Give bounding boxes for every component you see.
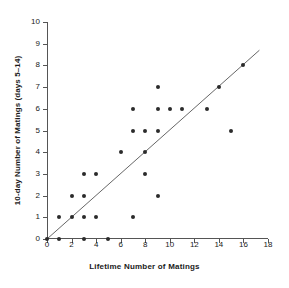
x-axis-label: Lifetime Number of Matings [0, 262, 289, 271]
y-tick-label: 8 [24, 60, 40, 69]
data-point [229, 129, 233, 133]
y-tick-label: 6 [24, 104, 40, 113]
y-tick [43, 87, 47, 88]
data-point [205, 107, 209, 111]
data-point [180, 107, 184, 111]
y-tick [43, 217, 47, 218]
x-tick-label: 10 [160, 240, 180, 249]
data-point [217, 85, 221, 89]
y-tick-label: 9 [24, 39, 40, 48]
data-point [131, 129, 135, 133]
y-tick [43, 22, 47, 23]
y-tick [43, 65, 47, 66]
data-point [70, 194, 74, 198]
x-tick-label: 0 [37, 240, 57, 249]
y-tick [43, 152, 47, 153]
y-axis-label: 10-day Number of Matings (days 5–14) [13, 51, 22, 211]
y-tick [43, 44, 47, 45]
y-tick-label: 7 [24, 82, 40, 91]
y-tick [43, 174, 47, 175]
data-point [156, 107, 160, 111]
x-tick-label: 14 [209, 240, 229, 249]
x-tick-label: 12 [184, 240, 204, 249]
data-point [156, 85, 160, 89]
data-point [156, 194, 160, 198]
data-point [119, 150, 123, 154]
y-axis-line [47, 22, 48, 239]
y-tick-label: 1 [24, 212, 40, 221]
x-tick-label: 16 [233, 240, 253, 249]
y-tick [43, 109, 47, 110]
x-tick-label: 18 [258, 240, 278, 249]
data-point [156, 129, 160, 133]
x-axis-line [47, 238, 268, 239]
y-tick-label: 2 [24, 191, 40, 200]
y-tick-label: 0 [24, 234, 40, 243]
data-point [82, 194, 86, 198]
y-tick-label: 10 [24, 17, 40, 26]
x-tick-label: 8 [135, 240, 155, 249]
y-tick-label: 4 [24, 147, 40, 156]
x-tick-label: 4 [86, 240, 106, 249]
plot-area [47, 22, 268, 239]
data-point [70, 215, 74, 219]
data-point [168, 107, 172, 111]
x-tick-label: 6 [111, 240, 131, 249]
y-tick-label: 3 [24, 169, 40, 178]
x-tick-label: 2 [62, 240, 82, 249]
y-tick [43, 131, 47, 132]
data-point [94, 172, 98, 176]
y-tick [43, 196, 47, 197]
data-point [143, 129, 147, 133]
data-point [82, 172, 86, 176]
y-tick-label: 5 [24, 126, 40, 135]
scatter-plot-figure: 024681012141618 012345678910 Lifetime Nu… [0, 0, 289, 288]
data-point [131, 107, 135, 111]
